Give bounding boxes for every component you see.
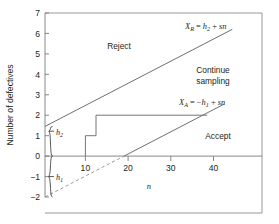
y-tick-label-3: 3 — [35, 90, 40, 100]
y-tick-label-2: 2 — [35, 110, 40, 120]
y-tick-label-6: 6 — [35, 29, 40, 39]
h2-brace-label: h2 — [56, 128, 63, 138]
y-tick-label-7: 7 — [35, 8, 40, 18]
cumulative-defectives-staircase — [85, 115, 207, 156]
y-tick-label-1: 1 — [35, 131, 40, 141]
plot-frame — [45, 13, 262, 213]
x-tick-label-10: 10 — [81, 163, 91, 173]
y-axis-ticks — [45, 13, 49, 197]
x-axis-title: n — [147, 181, 151, 191]
chart-container: 7 6 5 4 3 2 1 0 −1 −2 10 20 30 40 n Numb… — [0, 0, 279, 224]
sequential-sampling-chart: 7 6 5 4 3 2 1 0 −1 −2 10 20 30 40 n Numb… — [0, 0, 279, 224]
y-tick-label-5: 5 — [35, 49, 40, 59]
x-tick-label-30: 30 — [166, 163, 176, 173]
upper-limit-equation-label: XR = h2 + sn — [184, 22, 226, 32]
h1-brace-label: h1 — [56, 173, 63, 183]
continue-sampling-label-line1: Continue — [196, 65, 230, 75]
h2-brace — [49, 126, 54, 156]
y-tick-label-4: 4 — [35, 70, 40, 80]
h1-brace — [49, 156, 54, 197]
x-axis-tick-labels: 10 20 30 40 — [81, 163, 219, 173]
y-tick-label-neg1: −1 — [30, 172, 40, 182]
x-tick-label-40: 40 — [209, 163, 219, 173]
lower-limit-equation-label: XA = −h1 + sn — [178, 98, 225, 108]
y-tick-label-0: 0 — [35, 151, 40, 161]
y-tick-label-neg2: −2 — [30, 192, 40, 202]
y-axis-title: Number of defectives — [5, 64, 15, 145]
continue-sampling-label-line2: sampling — [196, 76, 230, 86]
x-axis-ticks — [85, 156, 213, 161]
y-axis-tick-labels: 7 6 5 4 3 2 1 0 −1 −2 — [30, 8, 40, 202]
reject-region-label: Reject — [107, 41, 131, 51]
accept-region-label: Accept — [205, 131, 231, 141]
x-tick-label-20: 20 — [123, 163, 133, 173]
